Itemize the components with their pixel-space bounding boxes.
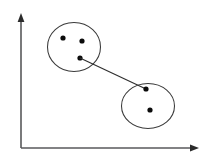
- data-point: [79, 38, 84, 43]
- data-point: [143, 86, 148, 91]
- data-point: [60, 35, 65, 40]
- nearest-neighbor-link: [80, 58, 146, 89]
- x-axis-arrowhead-icon: [190, 145, 199, 152]
- axes-group: [18, 13, 199, 151]
- data-point: [147, 107, 152, 112]
- cluster-diagram-figure: [0, 0, 210, 166]
- figure-canvas: [0, 0, 210, 166]
- cluster-b-group: [122, 84, 175, 129]
- y-axis-arrowhead-icon: [18, 13, 25, 22]
- inter-cluster-link-group: [80, 58, 146, 89]
